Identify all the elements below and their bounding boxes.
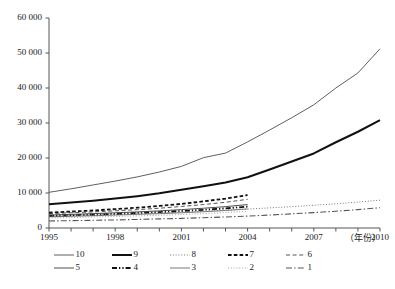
y-tick-label: 30 000 [0,118,42,127]
legend-item-9[interactable]: 9 [111,250,169,260]
legend-line-swatch-10 [53,250,75,260]
legend-item-10[interactable]: 10 [53,250,111,260]
legend-label-8: 8 [191,250,197,259]
legend-row: 109876 [0,248,395,261]
legend-line-swatch-5 [53,263,75,273]
chart-legend: 10987654321 [0,248,395,274]
legend-line-swatch-1 [285,263,307,273]
legend-label-10: 10 [75,250,85,259]
legend-item-8[interactable]: 8 [169,250,227,260]
y-tick-label: 40 000 [0,83,42,92]
legend-item-5[interactable]: 5 [53,263,111,273]
legend-line-swatch-7 [227,250,249,260]
legend-label-6: 6 [307,250,313,259]
series-line-7 [49,195,248,213]
legend-line-swatch-2 [227,263,249,273]
legend-label-2: 2 [249,263,255,272]
legend-label-5: 5 [75,263,81,272]
legend-line-swatch-6 [285,250,307,260]
series-line-9 [49,120,380,204]
legend-item-7[interactable]: 7 [227,250,285,260]
legend-item-1[interactable]: 1 [285,263,343,273]
y-tick-label: 10 000 [0,188,42,197]
legend-item-4[interactable]: 4 [111,263,169,273]
x-tick-label: 2001 [161,233,201,242]
legend-item-2[interactable]: 2 [227,263,285,273]
legend-line-swatch-3 [169,263,191,273]
series-line-10 [49,49,380,193]
line-chart: 010 00020 00030 00040 00050 00060 000 19… [0,0,395,289]
y-tick-label: 50 000 [0,48,42,57]
legend-line-swatch-8 [169,250,191,260]
y-tick-label: 60 000 [0,13,42,22]
plot-area [0,0,395,289]
x-axis-title: （年份） [345,231,381,244]
legend-label-9: 9 [133,250,139,259]
legend-line-swatch-9 [111,250,133,260]
x-tick-label: 1995 [29,233,69,242]
x-tick-label: 1998 [95,233,135,242]
legend-line-swatch-4 [111,263,133,273]
x-tick-label: 2007 [294,233,334,242]
y-tick-label: 0 [0,223,42,232]
legend-label-1: 1 [307,263,313,272]
legend-label-3: 3 [191,263,197,272]
legend-label-7: 7 [249,250,255,259]
x-tick-label: 2004 [228,233,268,242]
y-tick-label: 20 000 [0,153,42,162]
legend-item-3[interactable]: 3 [169,263,227,273]
legend-item-6[interactable]: 6 [285,250,343,260]
legend-row: 54321 [0,261,395,274]
legend-label-4: 4 [133,263,139,272]
